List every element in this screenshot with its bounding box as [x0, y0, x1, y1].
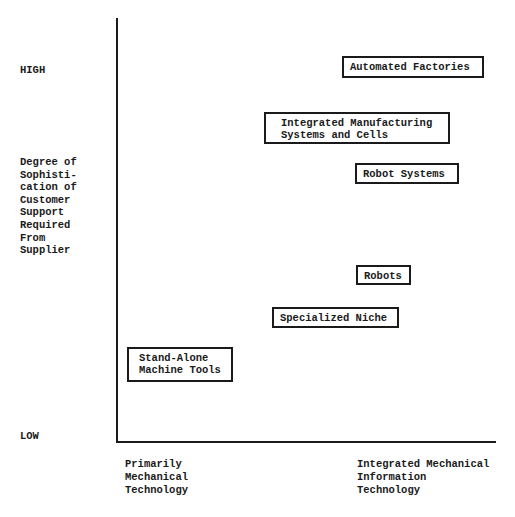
y-axis-title: Degree of Sophisti- cation of Customer S…: [20, 156, 77, 257]
box-stand-alone-machine-tools: Stand-Alone Machine Tools: [127, 347, 233, 382]
box-robot-systems: Robot Systems: [355, 163, 459, 184]
box-robots: Robots: [356, 265, 411, 285]
x-axis-right-label: Integrated Mechanical Information Techno…: [357, 458, 489, 497]
box-automated-factories: Automated Factories: [342, 56, 484, 78]
x-axis-left-label: Primarily Mechanical Technology: [125, 458, 188, 497]
y-axis-line: [116, 18, 118, 443]
box-integrated-manufacturing-systems: Integrated Manufacturing Systems and Cel…: [264, 112, 450, 144]
y-axis-high-label: HIGH: [20, 64, 45, 76]
x-axis-line: [116, 441, 496, 443]
box-specialized-niche: Specialized Niche: [272, 307, 399, 328]
y-axis-low-label: LOW: [20, 430, 39, 442]
